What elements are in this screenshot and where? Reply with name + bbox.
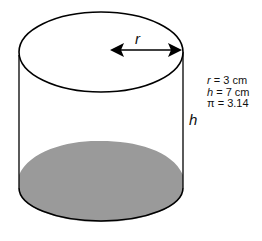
given-values: r = 3 cm h = 7 cm π = 3.14 <box>207 75 250 110</box>
cylinder-diagram: r h r = 3 cm h = 7 cm π = 3.14 <box>0 0 262 241</box>
shaded-base <box>19 141 183 222</box>
top-ellipse <box>19 12 183 92</box>
cylinder-figure <box>0 0 262 241</box>
radius-label: r <box>135 30 140 47</box>
given-pi: π = 3.14 <box>207 98 250 110</box>
height-label: h <box>189 111 197 128</box>
